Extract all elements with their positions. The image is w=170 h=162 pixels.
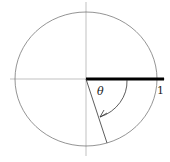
unit-circle-diagram: θ 1 — [0, 0, 170, 162]
one-label: 1 — [157, 84, 164, 97]
theta-label: θ — [97, 85, 104, 98]
angle-arc-arrow — [100, 80, 127, 117]
